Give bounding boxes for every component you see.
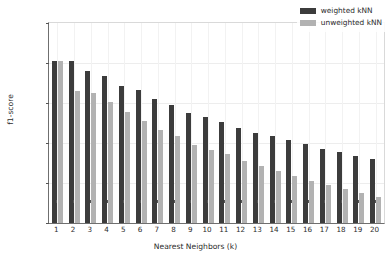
x-tick-mark xyxy=(56,200,57,203)
legend-swatch-unweighted xyxy=(300,20,316,26)
x-tick-mark xyxy=(375,200,376,203)
bar-series-container xyxy=(49,23,384,223)
bar-weighted-k17 xyxy=(320,149,325,223)
y-tick-mark xyxy=(46,143,49,144)
x-tick-mark xyxy=(207,200,208,203)
bar-unweighted-k15 xyxy=(292,176,297,223)
x-tick-mark xyxy=(107,200,108,203)
bar-weighted-k19 xyxy=(353,156,358,223)
bar-weighted-k13 xyxy=(253,133,258,223)
bar-unweighted-k3 xyxy=(91,93,96,223)
y-tick-mark xyxy=(46,223,49,224)
x-tick-mark xyxy=(308,200,309,203)
legend-label-unweighted: unweighted kNN xyxy=(321,18,382,27)
y-tick-mark xyxy=(46,103,49,104)
bar-unweighted-k4 xyxy=(108,102,113,223)
bar-unweighted-k8 xyxy=(175,136,180,223)
bar-weighted-k6 xyxy=(136,90,141,223)
bar-weighted-k15 xyxy=(286,140,291,223)
legend-swatch-weighted xyxy=(300,8,316,14)
x-tick-mark xyxy=(73,200,74,203)
bar-weighted-k18 xyxy=(337,152,342,223)
y-tick-mark xyxy=(46,183,49,184)
x-tick-mark xyxy=(90,200,91,203)
plot-area xyxy=(48,22,385,224)
bar-weighted-k2 xyxy=(69,61,74,223)
bar-unweighted-k9 xyxy=(192,145,197,223)
x-tick-mark xyxy=(324,200,325,203)
bar-unweighted-k18 xyxy=(343,189,348,223)
x-tick-mark xyxy=(190,200,191,203)
bar-weighted-k12 xyxy=(236,128,241,223)
x-tick-mark xyxy=(291,200,292,203)
legend-item-unweighted: unweighted kNN xyxy=(300,18,382,27)
x-axis-label: Nearest Neighbors (k) xyxy=(0,242,391,251)
chart-figure: 0.700.750.800.850.900.95 123456789101112… xyxy=(0,0,391,261)
bar-weighted-k8 xyxy=(169,105,174,223)
bar-unweighted-k5 xyxy=(125,112,130,223)
bar-unweighted-k6 xyxy=(142,121,147,223)
bar-weighted-k9 xyxy=(186,113,191,223)
bar-unweighted-k17 xyxy=(326,185,331,223)
y-tick-mark xyxy=(46,23,49,24)
bar-unweighted-k1 xyxy=(58,61,63,223)
x-tick-mark xyxy=(241,200,242,203)
bar-unweighted-k7 xyxy=(158,130,163,223)
legend-label-weighted: weighted kNN xyxy=(321,6,373,15)
bar-unweighted-k2 xyxy=(75,91,80,223)
y-axis-label: f1-score xyxy=(6,60,15,160)
bar-weighted-k10 xyxy=(203,117,208,223)
x-tick-mark xyxy=(274,200,275,203)
x-tick-mark xyxy=(224,200,225,203)
legend-item-weighted: weighted kNN xyxy=(300,6,382,15)
x-tick-mark xyxy=(174,200,175,203)
bar-weighted-k14 xyxy=(270,136,275,223)
bar-unweighted-k10 xyxy=(209,150,214,223)
bar-unweighted-k20 xyxy=(376,197,381,223)
bar-unweighted-k14 xyxy=(276,171,281,223)
x-tick-mark xyxy=(341,200,342,203)
chart-legend: weighted kNN unweighted kNN xyxy=(297,4,385,32)
x-tick-mark xyxy=(123,200,124,203)
bar-weighted-k16 xyxy=(303,144,308,223)
x-tick-mark xyxy=(157,200,158,203)
x-tick-mark xyxy=(257,200,258,203)
x-tick-mark xyxy=(358,200,359,203)
bar-weighted-k7 xyxy=(152,99,157,223)
bar-unweighted-k11 xyxy=(225,154,230,223)
bar-unweighted-k13 xyxy=(259,166,264,223)
bar-weighted-k11 xyxy=(219,122,224,223)
x-tick-label: 20 xyxy=(365,225,385,234)
y-tick-mark xyxy=(46,63,49,64)
bar-unweighted-k19 xyxy=(359,193,364,223)
bar-weighted-k20 xyxy=(370,159,375,223)
bar-weighted-k1 xyxy=(52,61,57,223)
x-tick-mark xyxy=(140,200,141,203)
bar-unweighted-k12 xyxy=(242,161,247,223)
bar-unweighted-k16 xyxy=(309,181,314,223)
